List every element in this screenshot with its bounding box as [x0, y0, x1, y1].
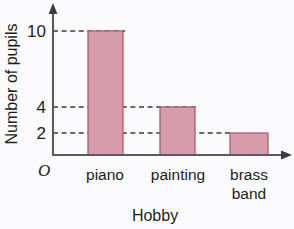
y-tick-labels-group: 10 4 2	[27, 22, 46, 143]
y-tick-label-4: 4	[37, 98, 46, 117]
gridlines-group	[53, 31, 232, 133]
bar-brass-band	[230, 133, 268, 155]
y-tick-label-2: 2	[37, 124, 46, 143]
y-axis-title: Number of pupils	[3, 24, 20, 145]
bar-painting	[160, 107, 195, 155]
bar-piano	[88, 31, 123, 155]
x-axis-arrow-icon	[281, 151, 292, 160]
chart-canvas: 10 4 2 O piano painting brass band Hobby…	[0, 0, 294, 229]
bar-chart-figure: 10 4 2 O piano painting brass band Hobby…	[0, 0, 294, 229]
x-category-labels-group: piano painting brass band	[86, 166, 268, 202]
x-label-brass-band-line2: band	[232, 185, 266, 202]
x-label-painting: painting	[151, 166, 205, 183]
x-label-brass-band-line1: brass	[230, 166, 268, 183]
y-tick-label-10: 10	[27, 22, 46, 41]
bars-group	[88, 31, 268, 155]
x-axis-title: Hobby	[132, 207, 178, 224]
x-label-piano: piano	[86, 166, 124, 183]
y-axis-arrow-icon	[49, 3, 58, 14]
origin-label: O	[38, 161, 50, 180]
